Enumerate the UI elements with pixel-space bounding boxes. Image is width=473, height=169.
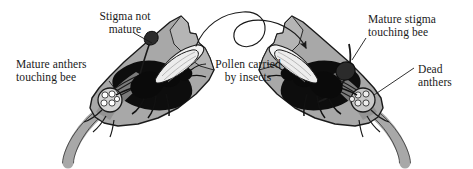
label-pollen-carried-by-insects: Pollen carried by insects [203, 58, 293, 84]
label-dead-anthers: Dead anthers [418, 63, 473, 89]
label-stigma-not-mature-line1: Stigma not [77, 10, 173, 23]
label-mature-anthers-line2: touching bee [16, 71, 126, 84]
right-flower-stigma [336, 62, 355, 80]
label-mature-stigma-line2: touching bee [368, 26, 468, 39]
leader-dead-anthers [374, 68, 414, 95]
label-mature-stigma-line1: Mature stigma [368, 13, 468, 26]
label-pollen-carried-line1: Pollen carried [203, 58, 293, 71]
label-stigma-not-mature-line2: mature [77, 23, 173, 36]
label-pollen-carried-line2: by insects [203, 71, 293, 84]
left-flower [63, 16, 215, 163]
label-dead-anthers-line2: anthers [418, 76, 473, 89]
label-stigma-not-mature: Stigma not mature [77, 10, 173, 36]
right-flower-stem [373, 112, 405, 163]
label-mature-stigma-touching-bee: Mature stigma touching bee [368, 13, 468, 39]
label-dead-anthers-line1: Dead [418, 63, 473, 76]
label-mature-anthers-touching-bee: Mature anthers touching bee [16, 58, 126, 84]
left-flower-stem [68, 112, 100, 163]
leader-mature-stigma [352, 38, 366, 60]
label-mature-anthers-line1: Mature anthers [16, 58, 126, 71]
pollination-diagram: Stigma not mature Mature anthers touchin… [0, 0, 473, 169]
left-flower-anthers [98, 88, 122, 112]
